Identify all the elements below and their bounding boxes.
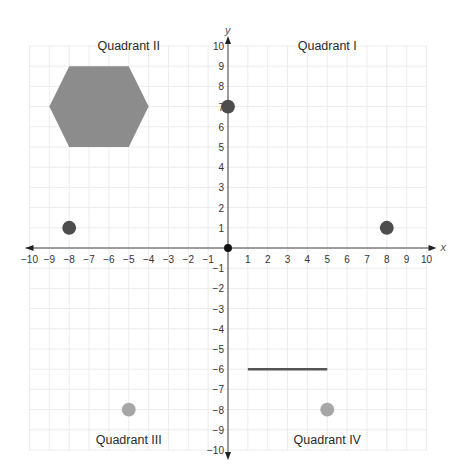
y-tick-label: −1 xyxy=(213,263,225,274)
data-point xyxy=(221,100,235,114)
y-tick-label: 10 xyxy=(213,41,225,52)
x-axis-label: x xyxy=(440,241,447,253)
y-tick-label: −6 xyxy=(213,364,225,375)
y-tick-label: 5 xyxy=(218,142,224,153)
x-tick-label: 6 xyxy=(344,254,350,265)
x-tick-label: −8 xyxy=(63,254,75,265)
x-tick-label: −7 xyxy=(83,254,95,265)
y-tick-label: −8 xyxy=(213,405,225,416)
quadrant-label: Quadrant III xyxy=(96,433,162,447)
y-tick-label: −4 xyxy=(213,324,225,335)
y-tick-label: 2 xyxy=(218,203,224,214)
y-tick-label: 4 xyxy=(218,162,224,173)
x-tick-label: 4 xyxy=(305,254,311,265)
quadrant-label: Quadrant IV xyxy=(294,433,362,447)
y-tick-label: 8 xyxy=(218,81,224,92)
x-tick-label: 5 xyxy=(324,254,330,265)
data-point xyxy=(320,403,334,417)
y-tick-label: −2 xyxy=(213,283,225,294)
x-tick-label: −4 xyxy=(143,254,155,265)
y-tick-label: −3 xyxy=(213,304,225,315)
y-axis-up-arrow-icon xyxy=(225,36,231,44)
x-tick-label: −3 xyxy=(163,254,175,265)
y-axis-down-arrow-icon xyxy=(225,452,231,460)
y-tick-label: 1 xyxy=(218,223,224,234)
y-tick-label: 3 xyxy=(218,182,224,193)
y-tick-label: −10 xyxy=(207,445,224,456)
y-tick-label: −5 xyxy=(213,344,225,355)
x-tick-label: −5 xyxy=(123,254,135,265)
y-tick-label: 6 xyxy=(218,122,224,133)
data-point xyxy=(122,403,136,417)
x-tick-label: −9 xyxy=(44,254,56,265)
x-tick-label: 1 xyxy=(245,254,251,265)
quadrant-label: Quadrant I xyxy=(298,39,357,53)
y-tick-label: −7 xyxy=(213,384,225,395)
y-axis-label: y xyxy=(224,24,232,36)
x-tick-label: −6 xyxy=(103,254,115,265)
coordinate-plane: xy −10−9−8−7−6−5−4−3−2−112345678910−10−9… xyxy=(0,0,463,469)
x-tick-label: 9 xyxy=(404,254,410,265)
x-tick-label: −2 xyxy=(183,254,195,265)
x-tick-label: −10 xyxy=(21,254,38,265)
y-tick-label: 9 xyxy=(218,61,224,72)
data-point xyxy=(62,221,76,235)
data-point xyxy=(380,221,394,235)
y-tick-label: −9 xyxy=(213,425,225,436)
origin-point xyxy=(224,244,232,252)
x-tick-label: 3 xyxy=(285,254,291,265)
x-tick-label: 10 xyxy=(421,254,433,265)
x-tick-label: 8 xyxy=(384,254,390,265)
x-tick-label: 7 xyxy=(364,254,370,265)
x-tick-label: 2 xyxy=(265,254,271,265)
quadrant-label: Quadrant II xyxy=(97,39,160,53)
x-axis-right-arrow-icon xyxy=(429,245,437,251)
hexagon xyxy=(49,66,148,147)
